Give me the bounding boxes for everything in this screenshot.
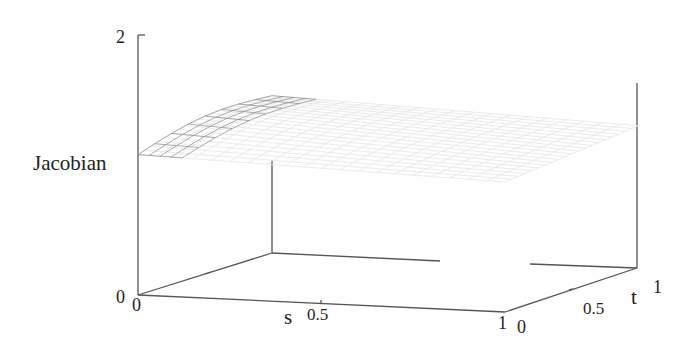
s-tick-0: 0: [132, 296, 141, 314]
s-tick-1: 1: [498, 314, 507, 332]
t-axis-label: t: [631, 287, 637, 308]
s-tick-05: 0.5: [307, 306, 328, 323]
back-edge-left-part: [272, 253, 440, 261]
z-tick-bottom: 0: [116, 288, 125, 306]
t-tick-0: 0: [517, 318, 526, 336]
back-edge-right-part: [530, 264, 637, 268]
t-tick-05: 0.5: [583, 300, 604, 317]
s-axis-label: s: [284, 307, 292, 328]
surface-plot: [0, 0, 695, 350]
z-tick-top: 2: [116, 28, 125, 46]
z-axis-label: Jacobian: [33, 153, 106, 174]
t-tick-1: 1: [653, 278, 662, 296]
